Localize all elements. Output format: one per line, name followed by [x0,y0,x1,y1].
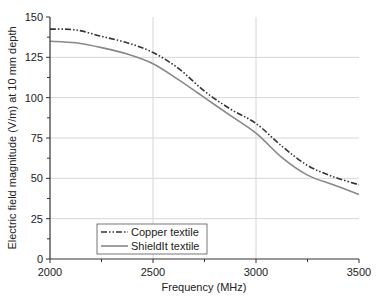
x-tick-label: 2000 [38,266,62,278]
grid-lines [50,17,359,259]
y-axis-title: Electric field magnitude (V/m) at 10 mm … [6,26,18,249]
series-line-shieldit [50,41,359,194]
x-tick-label: 3000 [244,266,268,278]
legend-label-shieldit: ShieldIt textile [131,240,199,252]
y-tick-label: 75 [31,132,43,144]
line-chart: 2000250030003500 0255075100125150 Freque… [0,0,385,306]
x-axis-title: Frequency (MHz) [162,281,247,293]
y-tick-label: 150 [25,11,43,23]
series-line-copper [50,29,359,185]
x-tick-label: 3500 [347,266,371,278]
y-tick-label: 100 [25,92,43,104]
legend-label-copper: Copper textile [131,226,199,238]
x-axis-ticks: 2000250030003500 [38,259,371,278]
y-tick-label: 0 [37,253,43,265]
legend: Copper textile ShieldIt textile [97,224,207,254]
y-tick-label: 125 [25,51,43,63]
x-tick-label: 2500 [141,266,165,278]
data-series [50,29,359,194]
y-tick-label: 50 [31,172,43,184]
y-tick-label: 25 [31,213,43,225]
y-axis-ticks: 0255075100125150 [25,11,50,265]
